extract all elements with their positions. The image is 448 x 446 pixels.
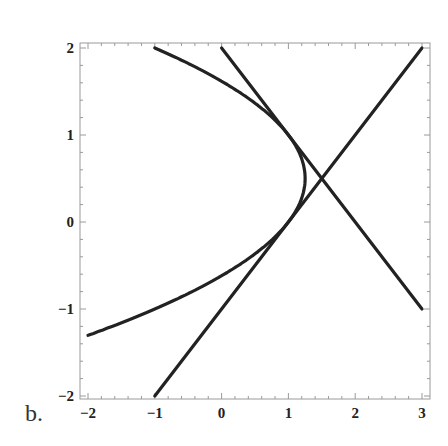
series-line-rising <box>155 48 422 396</box>
y-tick-label: 1 <box>67 127 75 143</box>
y-tick-label: −1 <box>58 301 74 317</box>
chart: −2−10123 −2−1012 b. <box>0 0 448 446</box>
panel-label: b. <box>25 400 43 427</box>
y-tick-label: 2 <box>67 40 75 56</box>
x-tick-label: −1 <box>147 405 163 421</box>
x-tick-label: 3 <box>418 405 426 421</box>
plot-area: −2−10123 −2−1012 <box>0 0 448 446</box>
x-axis-tick-labels: −2−10123 <box>80 405 426 421</box>
plot-frame <box>80 43 430 399</box>
y-axis-tick-labels: −2−1012 <box>58 40 74 404</box>
series-group <box>88 48 422 396</box>
y-tick-label: 0 <box>67 214 75 230</box>
x-tick-label: −2 <box>80 405 96 421</box>
series-parabola <box>88 48 305 335</box>
x-tick-label: 1 <box>285 405 293 421</box>
major-ticks <box>80 43 430 399</box>
x-tick-label: 0 <box>218 405 226 421</box>
x-tick-label: 2 <box>351 405 359 421</box>
y-tick-label: −2 <box>58 388 74 404</box>
minor-ticks <box>80 43 430 399</box>
